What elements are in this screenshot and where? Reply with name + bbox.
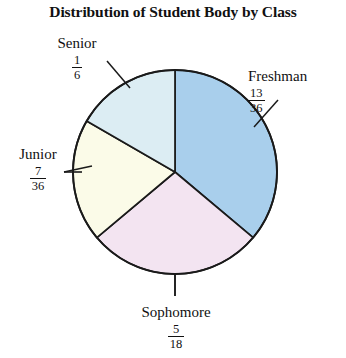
slice-value-sophomore: 5 18: [168, 322, 185, 351]
slice-value-freshman: 13 36: [248, 86, 265, 115]
slice-label-junior: Junior 7 36: [2, 147, 74, 193]
slice-label-sophomore: Sophomore 5 18: [114, 305, 238, 351]
slice-value-junior-denominator: 36: [30, 179, 47, 193]
slice-value-sophomore-numerator: 5: [168, 322, 185, 337]
slice-value-junior: 7 36: [30, 164, 47, 193]
slice-value-senior-numerator: 1: [72, 53, 82, 68]
pie-chart-figure: Distribution of Student Body by Class Se…: [0, 0, 346, 358]
slice-label-senior: Senior 1 6: [34, 36, 120, 82]
slice-value-freshman-denominator: 36: [248, 101, 265, 115]
slice-value-sophomore-denominator: 18: [168, 337, 185, 351]
slice-value-senior-denominator: 6: [72, 68, 82, 82]
slice-value-junior-numerator: 7: [30, 164, 47, 179]
slice-label-sophomore-name: Sophomore: [114, 305, 238, 321]
slice-value-freshman-numerator: 13: [248, 86, 265, 101]
slice-value-senior: 1 6: [72, 53, 82, 82]
slice-label-junior-name: Junior: [2, 147, 74, 163]
slice-label-senior-name: Senior: [34, 36, 120, 52]
slice-label-freshman: Freshman 13 36: [248, 69, 344, 115]
slice-label-freshman-name: Freshman: [248, 69, 344, 85]
